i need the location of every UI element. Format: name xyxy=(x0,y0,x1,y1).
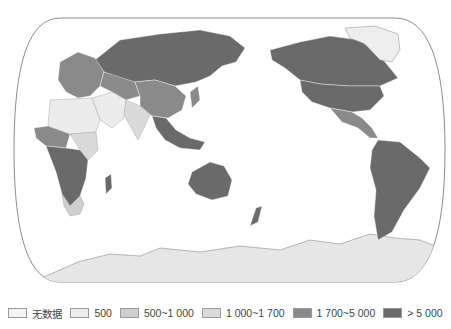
legend-label: > 5 000 xyxy=(407,307,442,319)
legend-item-1000-1700: 1 000~1 700 xyxy=(202,307,285,319)
legend-swatch xyxy=(70,308,89,318)
world-map xyxy=(0,0,451,300)
legend-item-500-1000: 500~1 000 xyxy=(120,307,194,319)
legend-item-500: 500 xyxy=(70,307,112,319)
legend-label: 无数据 xyxy=(32,306,62,321)
legend-label: 1 000~1 700 xyxy=(226,307,285,319)
legend-swatch xyxy=(8,308,27,318)
legend-swatch xyxy=(383,308,402,318)
legend-swatch xyxy=(293,308,312,318)
legend-label: 500 xyxy=(94,307,112,319)
legend-swatch xyxy=(120,308,139,318)
legend-label: 500~1 000 xyxy=(144,307,194,319)
region-north-africa xyxy=(48,98,100,134)
legend-item-over-5000: > 5 000 xyxy=(383,307,442,319)
legend-item-no-data: 无数据 xyxy=(8,306,62,321)
map-canvas xyxy=(0,0,451,300)
map-legend: 无数据 500 500~1 000 1 000~1 700 1 700~5 00… xyxy=(0,303,451,323)
legend-item-1700-5000: 1 700~5 000 xyxy=(293,307,376,319)
legend-swatch xyxy=(202,308,221,318)
legend-label: 1 700~5 000 xyxy=(317,307,376,319)
